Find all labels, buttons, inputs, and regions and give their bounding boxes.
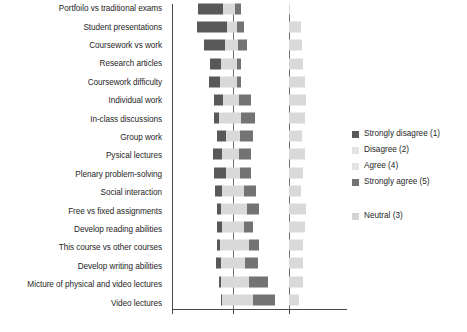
segment-neutral <box>289 240 303 251</box>
segment-disagree <box>225 40 233 51</box>
segment-strongly-agree <box>235 4 241 15</box>
segment-strongly-agree <box>237 22 244 33</box>
segment-strongly-agree <box>247 203 259 214</box>
segment-neutral <box>289 113 305 124</box>
category-label: This course vs other courses <box>0 239 168 257</box>
segment-neutral <box>289 222 305 233</box>
segment-agree <box>233 276 249 287</box>
segment-agree <box>233 131 240 142</box>
segment-disagree <box>221 276 233 287</box>
bar-row <box>172 164 347 182</box>
bar-row <box>172 236 347 254</box>
bar-row <box>172 291 347 309</box>
legend-swatch-icon <box>352 213 359 220</box>
segment-strongly-agree <box>239 94 251 105</box>
category-label: Video lectures <box>0 295 168 313</box>
segment-agree <box>233 294 253 305</box>
bar-row <box>172 273 347 291</box>
segment-strongly-agree <box>240 167 251 178</box>
segment-agree <box>233 203 247 214</box>
bar-row <box>172 18 347 36</box>
category-label: Develop writing abilities <box>0 258 168 276</box>
segment-disagree <box>222 294 233 305</box>
legend-item: Strongly disagree (1) <box>352 126 467 142</box>
segment-disagree <box>221 203 233 214</box>
chart-legend: Strongly disagree (1)Disagree (2)Agree (… <box>352 126 467 224</box>
bar-row <box>172 91 347 109</box>
segment-agree <box>233 258 245 269</box>
axis-tick-right <box>289 309 290 314</box>
segment-strongly-disagree <box>214 113 219 124</box>
segment-strongly-disagree <box>197 22 227 33</box>
segment-strongly-disagree <box>217 222 222 233</box>
category-label: Free vs fixed assignments <box>0 202 168 220</box>
bar-row <box>172 0 347 18</box>
bar-rows <box>172 0 347 309</box>
segment-neutral <box>289 4 290 15</box>
segment-disagree <box>221 258 233 269</box>
segment-disagree <box>221 58 233 69</box>
legend-label: Agree (4) <box>364 162 398 170</box>
category-label: Micture of physical and video lectures <box>0 276 168 294</box>
category-label: Plenary problem-solving <box>0 166 168 184</box>
segment-strongly-disagree <box>214 94 224 105</box>
bar-row <box>172 182 347 200</box>
category-axis-labels: Portfoilo vs traditional examsStudent pr… <box>0 0 168 313</box>
bar-row <box>172 36 347 54</box>
segment-strongly-agree <box>237 58 242 69</box>
segment-strongly-disagree <box>217 203 221 214</box>
segment-neutral <box>289 203 306 214</box>
segment-strongly-agree <box>245 258 258 269</box>
segment-strongly-disagree <box>221 294 222 305</box>
segment-strongly-agree <box>244 222 254 233</box>
legend-label: Disagree (2) <box>364 146 409 154</box>
legend-label: Strongly agree (5) <box>364 178 430 186</box>
segment-neutral <box>289 185 301 196</box>
category-label: Student presentations <box>0 18 168 36</box>
legend-item: Strongly agree (5) <box>352 174 467 190</box>
segment-neutral <box>289 149 305 160</box>
category-label: Individual work <box>0 92 168 110</box>
category-label: Social interaction <box>0 184 168 202</box>
plot-area <box>172 0 347 313</box>
segment-disagree <box>223 4 233 15</box>
segment-strongly-disagree <box>215 185 222 196</box>
segment-strongly-disagree <box>217 240 219 251</box>
segment-agree <box>233 240 249 251</box>
segment-strongly-disagree <box>216 258 221 269</box>
segment-neutral <box>289 276 303 287</box>
segment-disagree <box>226 167 233 178</box>
segment-strongly-disagree <box>209 76 220 87</box>
segment-disagree <box>222 185 233 196</box>
legend-swatch-icon <box>352 163 359 170</box>
legend-item: Agree (4) <box>352 158 467 174</box>
bar-row <box>172 218 347 236</box>
segment-neutral <box>289 167 303 178</box>
segment-strongly-disagree <box>198 4 223 15</box>
bar-row <box>172 55 347 73</box>
segment-strongly-disagree <box>210 58 221 69</box>
segment-strongly-disagree <box>219 276 221 287</box>
segment-neutral <box>289 40 302 51</box>
axis-tick-left <box>172 309 173 314</box>
segment-neutral <box>289 76 305 87</box>
segment-neutral <box>289 131 302 142</box>
category-label: Develop reading abilities <box>0 221 168 239</box>
category-label: Group work <box>0 129 168 147</box>
segment-strongly-agree <box>237 76 242 87</box>
segment-strongly-agree <box>239 149 251 160</box>
bar-row <box>172 109 347 127</box>
segment-strongly-agree <box>238 40 248 51</box>
legend-label: Strongly disagree (1) <box>364 130 440 138</box>
segment-disagree <box>220 240 233 251</box>
legend-swatch-icon <box>352 131 359 138</box>
legend-swatch-icon <box>352 179 359 186</box>
segment-agree <box>233 185 244 196</box>
segment-strongly-disagree <box>214 167 226 178</box>
segment-strongly-disagree <box>213 149 223 160</box>
segment-strongly-agree <box>249 240 260 251</box>
segment-neutral <box>289 22 301 33</box>
segment-neutral <box>289 94 306 105</box>
segment-disagree <box>220 76 233 87</box>
category-label: Portfoilo vs traditional exams <box>0 0 168 18</box>
